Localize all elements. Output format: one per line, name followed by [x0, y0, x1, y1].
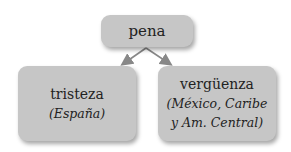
- child-node-tristeza: tristeza (España): [18, 66, 136, 141]
- region-label: (España): [49, 104, 105, 123]
- arrow-to-tristeza: [123, 48, 146, 64]
- root-node: pena: [101, 15, 193, 47]
- term-label: vergüenza: [180, 75, 254, 94]
- term-label: tristeza: [50, 85, 104, 104]
- arrow-to-verguenza: [146, 48, 170, 64]
- region-label-line2: y Am. Central): [171, 113, 263, 132]
- child-node-verguenza: vergüenza (México, Caribe y Am. Central): [158, 66, 276, 141]
- root-label: pena: [128, 22, 165, 40]
- region-label-line1: (México, Caribe: [167, 94, 268, 113]
